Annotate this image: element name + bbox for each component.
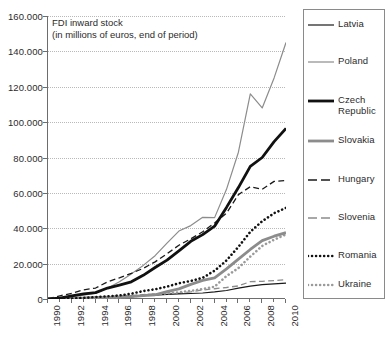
- x-axis-tick-mark: [59, 299, 60, 302]
- legend-label-text: Republic: [338, 105, 376, 116]
- x-axis-tick-mark: [47, 299, 48, 303]
- legend-label: Romania: [338, 249, 377, 260]
- series-line: [48, 234, 286, 299]
- series-line: [48, 280, 286, 299]
- x-axis-tick-label: 1990: [51, 305, 62, 327]
- legend: LatviaPolandCzechRepublicSlovakiaHungary…: [303, 9, 385, 299]
- x-axis-tick-mark: [142, 299, 143, 303]
- x-axis-tick-mark: [71, 299, 72, 303]
- x-axis-tick-mark: [237, 299, 238, 303]
- y-axis-tick-marks: [0, 16, 47, 299]
- x-axis-tick-mark: [118, 299, 119, 303]
- chart-subtitle: (in millions of euros, end of period): [52, 29, 198, 41]
- x-axis-tick-label: 1996: [122, 305, 133, 327]
- x-axis-tick-mark: [95, 299, 96, 303]
- chart-title-block: FDI inward stock (in millions of euros, …: [52, 17, 198, 41]
- legend-swatch-icon: [308, 135, 334, 147]
- x-axis-tick-label: 1994: [99, 305, 110, 327]
- x-axis-tick-label: 2008: [265, 305, 276, 327]
- legend-label-text: Romania: [338, 249, 377, 260]
- legend-label-text: Poland: [338, 55, 368, 66]
- legend-label: Latvia: [338, 18, 364, 29]
- legend-item-czech-republic[interactable]: CzechRepublic: [308, 94, 382, 116]
- legend-swatch-icon: [308, 56, 334, 68]
- series-line: [48, 208, 286, 299]
- legend-label-text: Czech: [338, 94, 376, 105]
- x-axis-tick-mark: [130, 299, 131, 302]
- x-axis-tick-label: 2004: [218, 305, 229, 327]
- legend-item-slovakia[interactable]: Slovakia: [308, 134, 382, 147]
- series-line: [48, 128, 286, 299]
- x-axis-tick-mark: [261, 299, 262, 303]
- legend-item-latvia[interactable]: Latvia: [308, 18, 382, 31]
- x-axis-tick-mark: [202, 299, 203, 302]
- legend-label-text: Slovakia: [338, 134, 375, 145]
- x-axis-tick-label: 2000: [170, 305, 181, 327]
- x-axis-tick-mark: [285, 299, 286, 303]
- legend-label: Slovenia: [338, 211, 375, 222]
- x-axis-tick-mark: [226, 299, 227, 302]
- series-line: [48, 180, 286, 298]
- legend-label: Slovakia: [338, 134, 375, 145]
- legend-swatch-icon: [308, 212, 334, 224]
- series-lines: [48, 16, 286, 299]
- legend-swatch-icon: [308, 250, 334, 262]
- x-axis-tick-mark: [178, 299, 179, 302]
- legend-label-text: Hungary: [338, 173, 375, 184]
- chart-root: 020.00040.00060.00080.000100.000120.0001…: [0, 0, 391, 355]
- x-axis-tick-mark: [249, 299, 250, 302]
- x-axis-tick-mark: [166, 299, 167, 303]
- x-axis-tick-label: 1992: [75, 305, 86, 327]
- legend-label: Hungary: [338, 173, 375, 184]
- legend-label: Poland: [338, 55, 368, 66]
- legend-item-hungary[interactable]: Hungary: [308, 173, 382, 186]
- legend-label-text: Ukraine: [338, 278, 371, 289]
- legend-swatch-icon: [308, 174, 334, 186]
- legend-label-text: Latvia: [338, 18, 364, 29]
- x-axis-tick-label: 1998: [146, 305, 157, 327]
- x-axis-tick-mark: [190, 299, 191, 303]
- legend-label-text: Slovenia: [338, 211, 375, 222]
- x-axis-labels: 1990199219941996199820002002200420062008…: [47, 305, 285, 355]
- x-axis-tick-mark: [154, 299, 155, 302]
- x-axis-tick-label: 2006: [241, 305, 252, 327]
- legend-swatch-icon: [308, 19, 334, 31]
- x-axis-tick-label: 2002: [194, 305, 205, 327]
- plot-area: [47, 16, 285, 299]
- x-axis-tick-marks: [47, 299, 285, 304]
- chart-title: FDI inward stock: [52, 17, 198, 29]
- legend-swatch-icon: [308, 95, 334, 107]
- legend-item-poland[interactable]: Poland: [308, 55, 382, 68]
- legend-label: CzechRepublic: [338, 94, 376, 116]
- x-axis-tick-label: 2010: [289, 305, 300, 327]
- legend-item-ukraine[interactable]: Ukraine: [308, 278, 382, 291]
- x-axis-tick-mark: [107, 299, 108, 302]
- legend-item-slovenia[interactable]: Slovenia: [308, 211, 382, 224]
- x-axis-tick-mark: [273, 299, 274, 302]
- legend-swatch-icon: [308, 279, 334, 291]
- legend-label: Ukraine: [338, 278, 371, 289]
- legend-item-romania[interactable]: Romania: [308, 249, 382, 262]
- x-axis-tick-mark: [214, 299, 215, 303]
- x-axis-tick-mark: [83, 299, 84, 302]
